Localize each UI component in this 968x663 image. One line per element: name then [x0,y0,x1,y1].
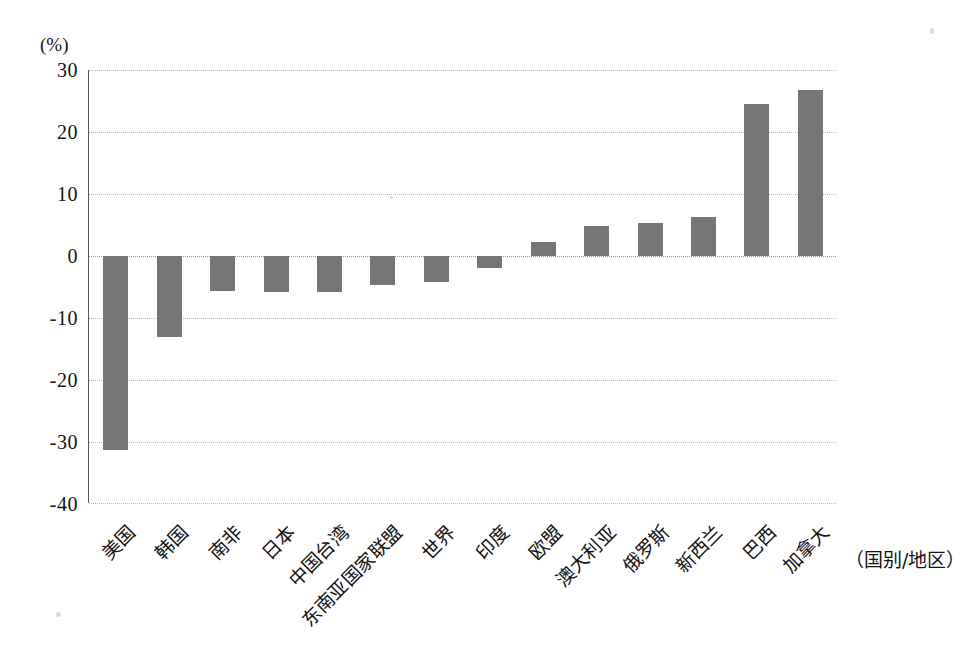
x-axis-label-2: 韩国 [147,518,193,564]
x-axis-label-7: 世界 [414,518,460,564]
x-axis-label-11: 俄罗斯 [615,518,674,577]
x-axis-label-12: 新西兰 [668,518,727,577]
x-axis-label-14: 加拿大 [775,518,834,577]
x-axis-label-1: 美国 [94,518,140,564]
x-axis-title: （国别/地区） [845,545,965,572]
bar-chart: (%) 30 20 10 0 -10 -20 -30 -40 美国韩国南非日本中… [0,0,968,663]
x-axis-label-9: 欧盟 [521,518,567,564]
x-axis-label-8: 印度 [468,518,514,564]
x-axis-label-3: 南非 [201,518,247,564]
scan-speckle [390,196,393,199]
scan-speckle [930,28,934,34]
x-axis-label-4: 日本 [254,518,300,564]
scan-speckle [56,612,61,617]
x-axis-category-labels: 美国韩国南非日本中国台湾东南亚国家联盟世界印度欧盟澳大利亚俄罗斯新西兰巴西加拿大 [0,0,968,663]
